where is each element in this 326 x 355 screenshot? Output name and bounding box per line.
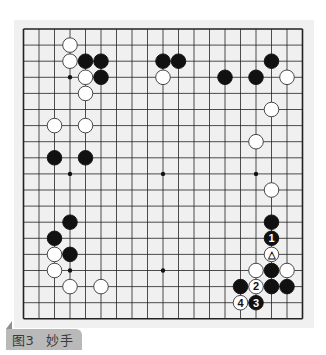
star-point — [254, 172, 258, 176]
black-stone — [47, 231, 62, 246]
white-stone: 2 — [249, 279, 264, 294]
triangle-marker-icon: △ — [267, 249, 276, 260]
white-stone — [78, 118, 93, 133]
black-stone — [94, 70, 109, 85]
black-stone — [78, 151, 93, 166]
black-stone — [78, 54, 93, 69]
star-point — [68, 268, 72, 272]
black-stone: 3 — [249, 295, 264, 310]
white-stone — [264, 102, 279, 117]
white-stone — [78, 86, 93, 101]
white-stone: 4 — [233, 295, 248, 310]
black-stone — [47, 151, 62, 166]
move-number-label: 2 — [253, 280, 259, 292]
black-stone — [171, 54, 186, 69]
white-stone — [47, 118, 62, 133]
star-point — [161, 268, 165, 272]
white-stone — [78, 70, 93, 85]
white-stone — [94, 279, 109, 294]
black-stone — [249, 70, 264, 85]
white-stone — [249, 263, 264, 278]
black-stone — [264, 215, 279, 230]
black-stone — [63, 215, 78, 230]
black-stone — [264, 263, 279, 278]
figure-caption: 图3 妙手 — [6, 329, 82, 350]
white-stone — [47, 263, 62, 278]
star-point — [161, 172, 165, 176]
black-stone — [233, 279, 248, 294]
black-stone — [63, 247, 78, 262]
move-number-label: 4 — [237, 297, 244, 309]
white-stone — [63, 54, 78, 69]
figure-number: 图3 — [12, 330, 34, 349]
black-stone — [94, 54, 109, 69]
white-stone — [280, 263, 295, 278]
move-number-label: 1 — [268, 232, 274, 244]
black-stone — [264, 279, 279, 294]
white-stone — [63, 38, 78, 53]
white-stone: △ — [264, 247, 279, 262]
white-stone — [264, 183, 279, 198]
caption-fold-decoration — [6, 321, 12, 329]
black-stone — [156, 54, 171, 69]
star-point — [68, 75, 72, 79]
figure-title: 妙手 — [46, 330, 73, 349]
black-stone: 1 — [264, 231, 279, 246]
black-stone — [280, 279, 295, 294]
white-stone — [156, 70, 171, 85]
move-number-label: 3 — [253, 297, 259, 309]
black-stone — [264, 54, 279, 69]
black-stone — [218, 70, 233, 85]
white-stone — [47, 247, 62, 262]
white-stone — [63, 279, 78, 294]
white-stone — [280, 70, 295, 85]
go-board[interactable]: 1△243 — [0, 0, 326, 355]
star-point — [68, 172, 72, 176]
white-stone — [249, 134, 264, 149]
